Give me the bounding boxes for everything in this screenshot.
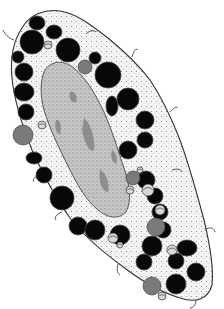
grey-granule xyxy=(78,60,92,74)
mitochondrion xyxy=(137,167,143,173)
mitochondrion xyxy=(167,245,177,255)
dark-granule xyxy=(119,141,137,159)
dark-granule xyxy=(56,38,80,62)
grey-granule xyxy=(147,218,165,236)
mitochondrion xyxy=(155,205,165,215)
dark-granule xyxy=(26,152,42,164)
dark-granule xyxy=(177,240,197,256)
cell-drawing xyxy=(0,0,224,309)
dark-granule xyxy=(20,30,44,54)
dark-granule xyxy=(117,88,139,110)
grey-granule xyxy=(126,171,140,185)
dark-granule xyxy=(137,132,153,148)
dark-granule xyxy=(50,186,74,210)
dark-granule xyxy=(69,217,87,235)
dark-granule xyxy=(85,220,105,240)
dark-granule xyxy=(12,51,24,63)
dark-granule xyxy=(36,167,52,183)
dark-granule xyxy=(14,83,34,101)
grey-granule xyxy=(143,277,161,295)
dark-granule xyxy=(166,274,186,294)
dark-granule xyxy=(29,16,45,30)
dark-granule xyxy=(168,253,184,269)
dark-granule xyxy=(15,63,33,81)
dark-granule xyxy=(187,263,205,281)
dark-granule xyxy=(136,254,152,270)
mitochondrion xyxy=(142,184,154,196)
dark-granule xyxy=(46,25,62,39)
dark-granule xyxy=(95,62,121,88)
mitochondrion xyxy=(117,242,123,248)
grey-granule xyxy=(13,125,33,145)
dark-granule xyxy=(18,104,34,120)
dark-granule xyxy=(136,111,154,129)
dark-granule xyxy=(142,236,162,256)
mitochondrion xyxy=(108,233,118,243)
dark-granule xyxy=(89,52,101,64)
cell-illustration xyxy=(0,0,224,309)
dark-granule xyxy=(106,96,118,116)
